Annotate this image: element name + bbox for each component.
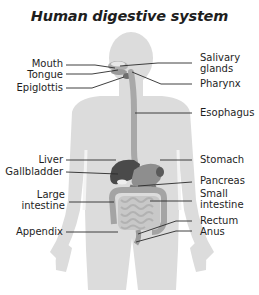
label-stomach: Stomach: [200, 154, 244, 165]
label-large-intestine-line2: intestine: [21, 200, 65, 211]
label-anus: Anus: [200, 226, 225, 237]
label-rectum: Rectum: [200, 215, 238, 226]
label-mouth: Mouth: [32, 58, 63, 69]
label-appendix: Appendix: [16, 226, 63, 237]
label-pharynx: Pharynx: [200, 78, 241, 89]
label-pancreas: Pancreas: [200, 175, 245, 186]
label-salivary-glands-line1: Salivary: [200, 52, 240, 63]
label-large-intestine-line1: Large: [21, 189, 65, 200]
label-epiglottis: Epiglottis: [16, 82, 63, 93]
label-salivary-glands-line2: glands: [200, 63, 240, 74]
label-large-intestine: Large intestine: [21, 189, 65, 211]
label-esophagus: Esophagus: [200, 107, 254, 118]
label-small-intestine: Small intestine: [200, 188, 244, 210]
label-liver: Liver: [38, 154, 63, 165]
human-body-figure: [0, 0, 259, 295]
label-small-intestine-line1: Small: [200, 188, 244, 199]
label-salivary-glands: Salivary glands: [200, 52, 240, 74]
label-tongue: Tongue: [27, 69, 63, 80]
label-gallbladder: Gallbladder: [5, 166, 63, 177]
label-small-intestine-line2: intestine: [200, 199, 244, 210]
